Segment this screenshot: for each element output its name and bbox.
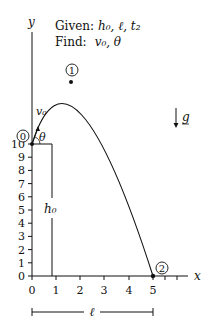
- svg-text:7: 7: [18, 178, 25, 191]
- svg-text:4: 4: [126, 284, 133, 297]
- svg-text:8: 8: [18, 164, 25, 177]
- point-0-marker: [30, 142, 34, 146]
- svg-text:0: 0: [29, 284, 36, 297]
- svg-text:3: 3: [18, 230, 25, 243]
- svg-text:5: 5: [150, 284, 157, 297]
- gravity-label: g: [182, 110, 190, 124]
- x-ticks: [32, 276, 177, 280]
- point-1-marker: [69, 80, 73, 84]
- svg-text:0: 0: [18, 270, 25, 283]
- y-tick-labels: 0 1 2 3 4 5 6 7 8 9 10: [11, 138, 25, 283]
- y-axis-label: y: [27, 15, 35, 29]
- projectile-diagram: Given:h₀, ℓ, t₂ Find:v₀, θ y x 0 1 2 3 4…: [0, 0, 210, 326]
- point-1-label: 1: [69, 65, 75, 76]
- v0-label: v₀: [36, 105, 47, 118]
- point-2-label: 2: [159, 263, 165, 274]
- find-label: Find:v₀, θ: [55, 35, 122, 49]
- given-label: Given:h₀, ℓ, t₂: [55, 19, 141, 33]
- length-label: ℓ: [90, 305, 95, 319]
- point-2-marker: [151, 274, 155, 278]
- svg-text:9: 9: [18, 151, 25, 164]
- trajectory-curve: [32, 104, 153, 276]
- gravity-arrowhead: [174, 123, 179, 128]
- svg-text:1: 1: [53, 284, 60, 297]
- svg-text:6: 6: [18, 191, 25, 204]
- svg-text:2: 2: [77, 284, 84, 297]
- svg-text:4: 4: [18, 217, 25, 230]
- svg-text:5: 5: [18, 204, 25, 217]
- y-ticks: [28, 144, 32, 276]
- svg-text:3: 3: [101, 284, 108, 297]
- theta-label: θ: [39, 131, 46, 144]
- h0-label: h₀: [44, 202, 57, 216]
- svg-text:1: 1: [18, 257, 25, 270]
- x-tick-labels: 0 1 2 3 4 5: [29, 284, 157, 297]
- point-0-label: 0: [20, 131, 26, 142]
- svg-text:2: 2: [18, 244, 25, 257]
- x-axis-label: x: [194, 269, 201, 283]
